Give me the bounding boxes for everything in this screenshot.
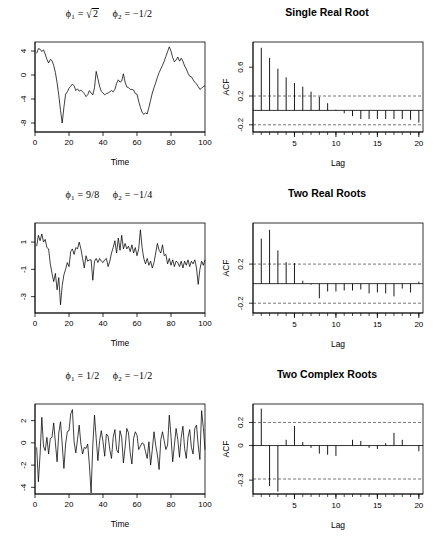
- axis-text: 0: [33, 319, 38, 328]
- panel-title-2: ϕ1 = 9/8 ϕ2 = −1/4: [0, 189, 218, 202]
- x-axis-label: Lag: [331, 520, 345, 530]
- axis-text: 0.6: [236, 61, 245, 73]
- axis-text: 15: [373, 139, 382, 148]
- panel-title-3: ϕ1 = 1/2 ϕ2 = −1/2: [0, 370, 218, 383]
- acf-svg-3: 51015200.20-0.3LagACF: [218, 362, 436, 543]
- plot-frame: [35, 404, 205, 494]
- phi2-expression-2: ϕ2 = −1/4: [113, 189, 153, 200]
- timeseries-svg-3: 02040608010020-2-4Time: [0, 362, 218, 543]
- axis-text: 40: [99, 319, 108, 328]
- acf-svg-2: 51015200.2-0.2LagACF: [218, 181, 436, 362]
- axis-text: 100: [198, 138, 212, 147]
- axis-text: 20: [65, 138, 74, 147]
- x-axis-label: Time: [111, 519, 130, 529]
- axis-text: 10: [331, 139, 340, 148]
- axis-text: 1: [19, 239, 28, 244]
- axis-text: 0.2: [236, 258, 245, 270]
- axis-text: 0: [33, 500, 38, 509]
- acf-title-3: Two Complex Roots: [218, 368, 436, 380]
- figure-grid: ϕ1 = √2 ϕ2 = −1/2 02040608010040-4-8Time…: [0, 0, 436, 543]
- y-axis-label: ACF: [221, 79, 231, 96]
- axis-text: -2: [19, 461, 28, 469]
- axis-text: 60: [133, 500, 142, 509]
- x-axis-label: Time: [111, 157, 130, 167]
- axis-text: -3: [19, 293, 28, 301]
- panel-timeseries-3: ϕ1 = 1/2 ϕ2 = −1/2 02040608010020-2-4Tim…: [0, 362, 218, 543]
- axis-text: 80: [167, 138, 176, 147]
- plot-frame: [253, 404, 423, 494]
- y-axis-label: ACF: [221, 260, 231, 277]
- phi1-expression-3: ϕ1 = 1/2: [66, 370, 100, 381]
- plot-frame: [253, 42, 423, 132]
- axis-text: 0: [33, 138, 38, 147]
- axis-text: -1: [19, 265, 28, 273]
- timeseries-svg-1: 02040608010040-4-8Time: [0, 0, 218, 181]
- axis-text: 40: [99, 138, 108, 147]
- phi2-expression-1: ϕ2 = −1/2: [113, 8, 153, 19]
- axis-text: 20: [414, 501, 423, 510]
- axis-text: 20: [65, 319, 74, 328]
- acf-title-1: Single Real Root: [218, 6, 436, 18]
- x-axis-label: Lag: [331, 339, 345, 349]
- axis-text: 2: [19, 418, 28, 423]
- axis-text: -0.2: [236, 117, 245, 131]
- axis-text: -4: [19, 95, 28, 103]
- axis-text: 10: [331, 320, 340, 329]
- acf-title-2: Two Real Roots: [218, 187, 436, 199]
- axis-text: -8: [19, 119, 28, 127]
- series-line: [37, 410, 205, 493]
- axis-text: 0: [19, 72, 28, 77]
- axis-text: -4: [19, 483, 28, 491]
- axis-text: 10: [331, 501, 340, 510]
- plot-frame: [35, 42, 205, 132]
- timeseries-svg-2: 0204060801001-1-3Time: [0, 181, 218, 362]
- axis-text: 20: [65, 500, 74, 509]
- phi2-expression-3: ϕ2 = −1/2: [113, 370, 153, 381]
- axis-text: 100: [198, 319, 212, 328]
- axis-text: 80: [167, 319, 176, 328]
- panel-timeseries-2: ϕ1 = 9/8 ϕ2 = −1/4 0204060801001-1-3Time: [0, 181, 218, 362]
- axis-text: 5: [292, 320, 297, 329]
- axis-text: 20: [414, 320, 423, 329]
- axis-text: 4: [19, 48, 28, 53]
- axis-text: 15: [373, 501, 382, 510]
- axis-text: 0.2: [236, 90, 245, 102]
- sqrt-glyph: √2: [86, 8, 99, 20]
- axis-text: 0: [236, 443, 245, 448]
- axis-text: 15: [373, 320, 382, 329]
- panel-acf-3: Two Complex Roots 51015200.20-0.3LagACF: [218, 362, 436, 543]
- series-line: [37, 230, 205, 305]
- plot-frame: [253, 223, 423, 313]
- axis-text: 60: [133, 138, 142, 147]
- phi1-expression-2: ϕ1 = 9/8: [66, 189, 100, 200]
- axis-text: 0: [19, 440, 28, 445]
- axis-text: 5: [292, 139, 297, 148]
- axis-text: 60: [133, 319, 142, 328]
- panel-title-1: ϕ1 = √2 ϕ2 = −1/2: [0, 8, 218, 21]
- y-axis-label: ACF: [221, 441, 231, 458]
- panel-acf-2: Two Real Roots 51015200.2-0.2LagACF: [218, 181, 436, 362]
- axis-text: -0.3: [236, 473, 245, 487]
- axis-text: 20: [414, 139, 423, 148]
- axis-text: 0.2: [236, 416, 245, 428]
- series-line: [37, 47, 205, 123]
- x-axis-label: Time: [111, 338, 130, 348]
- axis-text: -0.2: [236, 296, 245, 310]
- panel-acf-1: Single Real Root 51015200.60.2-0.2LagACF: [218, 0, 436, 181]
- acf-svg-1: 51015200.60.2-0.2LagACF: [218, 0, 436, 181]
- axis-text: 40: [99, 500, 108, 509]
- phi1-expression-1: ϕ1 =: [66, 8, 86, 19]
- panel-timeseries-1: ϕ1 = √2 ϕ2 = −1/2 02040608010040-4-8Time: [0, 0, 218, 181]
- axis-text: 100: [198, 500, 212, 509]
- axis-text: 5: [292, 501, 297, 510]
- axis-text: 80: [167, 500, 176, 509]
- x-axis-label: Lag: [331, 158, 345, 168]
